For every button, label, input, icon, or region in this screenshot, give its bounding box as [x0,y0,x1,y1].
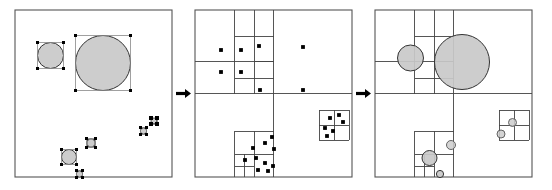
bounding-box-handle[interactable] [75,148,78,151]
quadtree-point [323,126,327,130]
bounding-box-handle[interactable] [129,34,132,37]
quadtree-point [263,161,267,165]
bounding-box-handle[interactable] [149,116,152,119]
bounding-box-handle[interactable] [81,169,84,172]
panel-objects-frame [15,10,172,177]
quadtree-point [219,48,223,52]
bounding-box-handle[interactable] [75,176,78,179]
bounding-box-handle[interactable] [155,116,158,119]
bounding-box-handle[interactable] [94,137,97,140]
bounding-box-handle[interactable] [81,176,84,179]
bounding-box-handle[interactable] [129,89,132,92]
bounding-box-handle[interactable] [36,67,39,70]
quadtree-point [239,70,243,74]
figure-canvas [0,0,552,190]
bounding-box-handle[interactable] [36,41,39,44]
quadtree-point [301,88,305,92]
bounding-box-handle[interactable] [60,163,63,166]
panel-combined [375,10,532,178]
quadtree-point [257,44,261,48]
quadtree-point [251,146,255,150]
bounding-box-handle[interactable] [85,137,88,140]
bounding-box-handle[interactable] [62,67,65,70]
object-disc [422,151,437,166]
bounding-box-handle[interactable] [145,126,148,129]
quadtree-point [266,169,270,173]
bounding-box-handle[interactable] [75,163,78,166]
bounding-box-handle[interactable] [60,148,63,151]
bounding-box-handle[interactable] [139,126,142,129]
quadtree-point [341,120,345,124]
object-disc [38,43,64,69]
quadtree-point [254,156,258,160]
arrow-head [185,89,191,98]
object-disc [497,130,505,138]
object-disc [398,45,424,71]
object-disc [62,150,77,165]
panel-quadtree [195,10,352,177]
quadtree-point [301,45,305,49]
quadtree-point [272,147,276,151]
bounding-box-handle[interactable] [94,146,97,149]
arrow-head [365,89,371,98]
panel-objects [15,10,172,179]
bounding-box-handle[interactable] [74,89,77,92]
bounding-box-handle[interactable] [75,169,78,172]
object-disc [436,170,443,177]
quadtree-point [263,141,267,145]
quadtree-point [271,164,275,168]
bounding-box-handle[interactable] [149,122,152,125]
quadtree-figure [0,0,552,190]
quadtree-point [239,48,243,52]
bounding-box-handle[interactable] [74,34,77,37]
quadtree-point [337,113,341,117]
quadtree-point [219,70,223,74]
bounding-box-handle[interactable] [155,122,158,125]
arrow-panel2-to-panel3 [356,89,371,98]
bounding-box-handle[interactable] [139,133,142,136]
object-disc [435,35,490,90]
quadtree-point [328,116,332,120]
bounding-box-handle[interactable] [85,146,88,149]
quadtree-point [270,135,274,139]
quadtree-point [243,158,247,162]
object-disc [76,36,131,91]
quadtree-point [331,129,335,133]
object-disc [509,119,517,127]
bounding-box-handle[interactable] [145,133,148,136]
quadtree-point [325,134,329,138]
quadtree-point [258,88,262,92]
arrow-panel1-to-panel2 [176,89,191,98]
quadtree-point [256,168,260,172]
bounding-box-handle[interactable] [62,41,65,44]
object-disc [447,141,456,150]
